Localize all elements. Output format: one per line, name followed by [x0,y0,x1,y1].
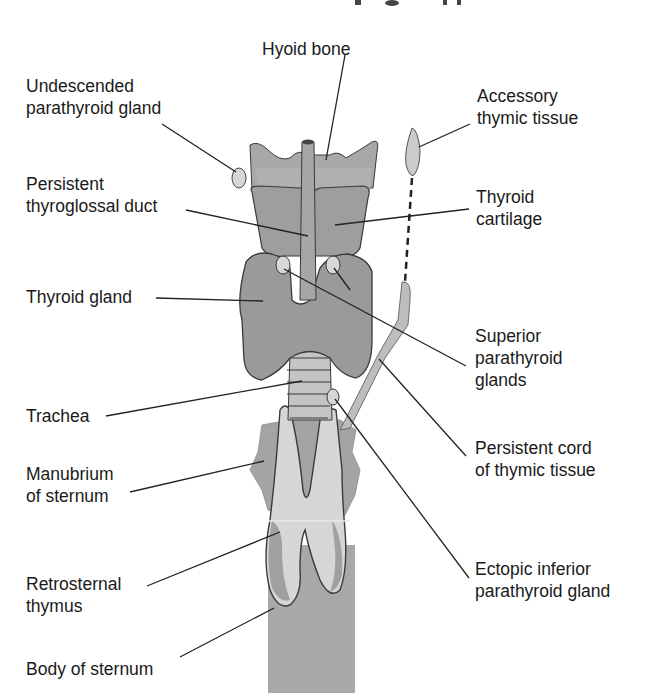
label-persistent-cord: Persistent cord of thymic tissue [475,437,596,481]
label-persistent-thyroglossal-duct: Persistent thyroglossal duct [26,173,157,217]
label-retrosternal-thymus: Retrosternal thymus [26,573,121,617]
label-thyroid-cartilage: Thyroid cartilage [476,186,542,230]
label-superior-parathyroid-glands: Superior parathyroid glands [475,325,563,391]
thymic-dashed-path [405,178,412,282]
leader-accessory-thymic [419,124,470,147]
thyroglossal-duct [300,142,316,300]
label-undescended-parathyroid: Undescended parathyroid gland [26,75,161,119]
label-ectopic-inferior-parathyroid: Ectopic inferior parathyroid gland [475,558,610,602]
duct-opening [302,140,314,145]
leader-retrosternal-thymus [147,532,280,586]
superior-parathyroid-right [326,256,340,274]
leader-manubrium [130,461,264,492]
label-trachea: Trachea [26,405,90,427]
leader-hyoid-bone [326,55,345,160]
accessory-thymic-tissue [406,128,420,176]
title-descenders [355,0,461,6]
label-hyoid-bone: Hyoid bone [262,38,351,60]
label-thyroid-gland: Thyroid gland [26,286,132,308]
leader-persistent-cord [379,359,466,456]
label-manubrium-of-sternum: Manubrium of sternum [26,463,114,507]
label-body-of-sternum: Body of sternum [26,658,153,680]
label-accessory-thymic-tissue: Accessory thymic tissue [477,85,578,129]
leader-trachea [106,381,302,416]
leader-undescended-parathyroid [162,124,236,172]
leader-body-of-sternum [180,608,274,657]
